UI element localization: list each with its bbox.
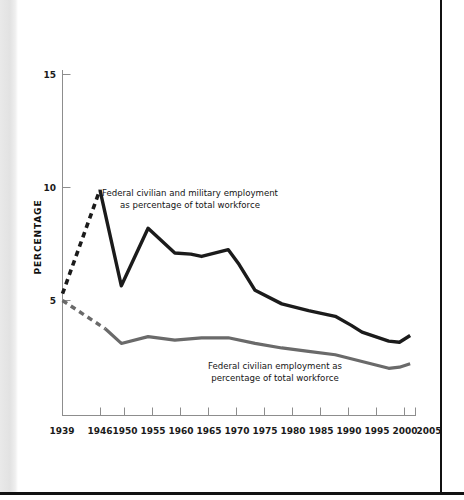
x-axis-tick-label-1985: 1985 bbox=[308, 426, 333, 436]
annotation-civilian-line-1: Federal civilian employment as bbox=[208, 361, 343, 371]
x-axis-tick-label-1946: 1946 bbox=[87, 426, 112, 436]
x-axis-tick-label-1990: 1990 bbox=[336, 426, 361, 436]
page-container: 15 10 5 PERCENTAGE bbox=[0, 0, 464, 500]
x-axis-tick-label-1980: 1980 bbox=[280, 426, 305, 436]
x-axis-tick-label-1960: 1960 bbox=[168, 426, 193, 436]
y-axis-title: PERCENTAGE bbox=[33, 200, 43, 275]
y-axis-tick-label-10: 10 bbox=[43, 183, 56, 193]
x-axis-tick-label-1965: 1965 bbox=[196, 426, 221, 436]
x-axis-tick-label-1939: 1939 bbox=[49, 426, 74, 436]
x-axis-tick-label-1995: 1995 bbox=[364, 426, 389, 436]
series-civilian-employment bbox=[63, 301, 411, 369]
annotation-total-line-2: as percentage of total workforce bbox=[120, 200, 260, 210]
annotation-total-line-1: Federal civilian and military employment bbox=[102, 188, 279, 198]
x-axis-tick-label-1970: 1970 bbox=[224, 426, 249, 436]
annotation-total-employment: Federal civilian and military employment… bbox=[102, 188, 279, 210]
page-border-right bbox=[440, 0, 442, 494]
y-axis: 15 10 5 PERCENTAGE bbox=[33, 70, 71, 416]
series-total-solid-segment bbox=[100, 190, 410, 343]
x-axis-tick-label-1955: 1955 bbox=[140, 426, 165, 436]
y-axis-tick-label-15: 15 bbox=[43, 70, 56, 80]
x-axis-tick-label-2005: 2005 bbox=[416, 426, 440, 436]
line-chart-figure: 15 10 5 PERCENTAGE bbox=[0, 0, 440, 492]
series-total-employment bbox=[63, 190, 411, 343]
series-civilian-dashed-segment bbox=[63, 301, 106, 329]
chart-svg: 15 10 5 PERCENTAGE bbox=[0, 0, 440, 492]
x-axis-tick-label-2000: 2000 bbox=[392, 426, 417, 436]
page-border-bottom bbox=[0, 492, 464, 495]
x-axis: 1939 1946 1950 1955 1960 1965 1970 1975 … bbox=[49, 408, 440, 437]
annotation-civilian-line-2: percentage of total workforce bbox=[211, 373, 339, 383]
x-axis-tick-label-1950: 1950 bbox=[112, 426, 137, 436]
x-axis-tick-label-1975: 1975 bbox=[252, 426, 277, 436]
y-axis-tick-label-5: 5 bbox=[50, 296, 56, 306]
annotation-civilian-employment: Federal civilian employment as percentag… bbox=[208, 361, 343, 383]
series-total-dashed-segment bbox=[63, 190, 100, 294]
